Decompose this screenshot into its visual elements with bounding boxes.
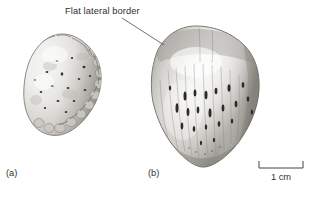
panel-label-b: (b) — [148, 168, 159, 179]
scale-bar-label: 1 cm — [258, 172, 304, 183]
annotation-flat-lateral-border: Flat lateral border — [65, 6, 140, 17]
specimen-a — [24, 34, 105, 135]
panel-label-a: (a) — [6, 168, 17, 179]
annotation-leader-line — [122, 18, 164, 45]
figure-root: Flat lateral border (a) (b) 1 cm — [0, 0, 314, 200]
specimen-b — [151, 26, 259, 167]
scale-bar-bracket — [259, 161, 303, 168]
